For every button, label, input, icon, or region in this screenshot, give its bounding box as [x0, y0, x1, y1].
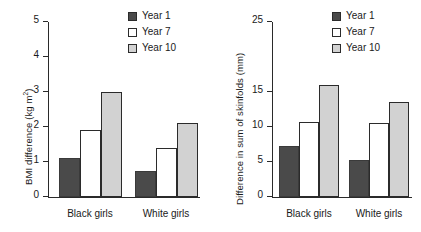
- bar-skinfolds-black-girls-year-1: [279, 146, 299, 197]
- y-axis-line-skinfolds: [272, 22, 273, 198]
- legend-label-year7: Year 7: [346, 27, 375, 37]
- y-axis-tick: 5: [43, 21, 48, 22]
- y-axis-title-bmi-superscript: 2: [22, 92, 29, 96]
- y-axis-tick: 15: [267, 91, 272, 92]
- bar-bmi-black-girls-year-10: [101, 92, 122, 197]
- legend-bmi: Year 1 Year 7 Year 10: [128, 10, 176, 54]
- y-axis-tick-label: 5: [33, 14, 39, 26]
- bar-bmi-black-girls-year-1: [59, 158, 80, 196]
- y-axis-title-bmi: BMI difference (kg m2): [22, 25, 34, 185]
- y-axis-tick-label: 15: [252, 84, 263, 96]
- y-axis-tick: 5: [267, 161, 272, 162]
- legend-item-year7: Year 7: [128, 26, 176, 38]
- y-axis-tick-label: 10: [252, 119, 263, 131]
- y-axis-tick: 10: [267, 126, 272, 127]
- bar-bmi-black-girls-year-7: [80, 130, 101, 196]
- legend-label-year1: Year 1: [142, 11, 171, 21]
- y-axis-tick: 3: [43, 91, 48, 92]
- y-axis-line-bmi: [48, 22, 49, 198]
- y-axis-tick: 25: [267, 21, 272, 22]
- y-axis-tick-label: 4: [33, 49, 39, 61]
- legend-label-year7: Year 7: [142, 27, 171, 37]
- legend-item-year7: Year 7: [332, 26, 380, 38]
- chart-panel-bmi: BMI difference (kg m2) 012345 Year 1 Yea…: [0, 0, 210, 232]
- y-axis-title-bmi-text: BMI difference (kg m: [23, 96, 34, 185]
- plot-area-bmi: 012345: [48, 22, 200, 198]
- y-axis-tick: 1: [43, 161, 48, 162]
- bar-bmi-white-girls-year-10: [177, 123, 198, 196]
- y-axis-tick-label: 25: [252, 14, 263, 26]
- bar-skinfolds-white-girls-year-1: [349, 160, 369, 197]
- x-axis-line-skinfolds: [272, 197, 412, 198]
- legend-skinfolds: Year 1 Year 7 Year 10: [332, 10, 380, 54]
- bar-skinfolds-black-girls-year-10: [319, 85, 339, 197]
- y-axis-tick-label: 0: [257, 189, 263, 201]
- bar-skinfolds-white-girls-year-7: [369, 123, 389, 196]
- bar-bmi-white-girls-year-7: [156, 148, 177, 197]
- y-axis-tick: 0: [43, 196, 48, 197]
- y-axis-tick-label: 0: [33, 189, 39, 201]
- legend-item-year10: Year 10: [128, 42, 176, 54]
- legend-swatch-year10-icon: [128, 44, 137, 53]
- legend-item-year10: Year 10: [332, 42, 380, 54]
- bar-bmi-white-girls-year-1: [135, 171, 156, 197]
- legend-item-year1: Year 1: [128, 10, 176, 22]
- legend-swatch-year1-icon: [332, 12, 341, 21]
- bar-skinfolds-black-girls-year-7: [299, 122, 319, 197]
- x-axis-category-label: White girls: [121, 208, 212, 219]
- bar-chart-figure: BMI difference (kg m2) 012345 Year 1 Yea…: [0, 0, 421, 232]
- legend-swatch-year1-icon: [128, 12, 137, 21]
- y-axis-tick: 0: [267, 196, 272, 197]
- legend-label-year1: Year 1: [346, 11, 375, 21]
- y-axis-tick-label: 1: [33, 154, 39, 166]
- x-axis-line-bmi: [48, 197, 200, 198]
- y-axis-tick-label: 3: [33, 84, 39, 96]
- legend-label-year10: Year 10: [346, 43, 380, 53]
- y-axis-tick: 2: [43, 126, 48, 127]
- y-axis-title-skinfolds: Difference in sum of skinfolds (mm): [234, 20, 245, 205]
- legend-swatch-year7-icon: [332, 28, 341, 37]
- legend-label-year10: Year 10: [142, 43, 176, 53]
- y-axis-tick-label: 5: [257, 154, 263, 166]
- bar-skinfolds-white-girls-year-10: [389, 102, 409, 197]
- legend-swatch-year10-icon: [332, 44, 341, 53]
- y-axis-tick: 4: [43, 56, 48, 57]
- legend-item-year1: Year 1: [332, 10, 380, 22]
- y-axis-tick-label: 2: [33, 119, 39, 131]
- legend-swatch-year7-icon: [128, 28, 137, 37]
- chart-panel-skinfolds: Difference in sum of skinfolds (mm) 0510…: [210, 0, 421, 232]
- x-axis-category-label: White girls: [335, 208, 421, 219]
